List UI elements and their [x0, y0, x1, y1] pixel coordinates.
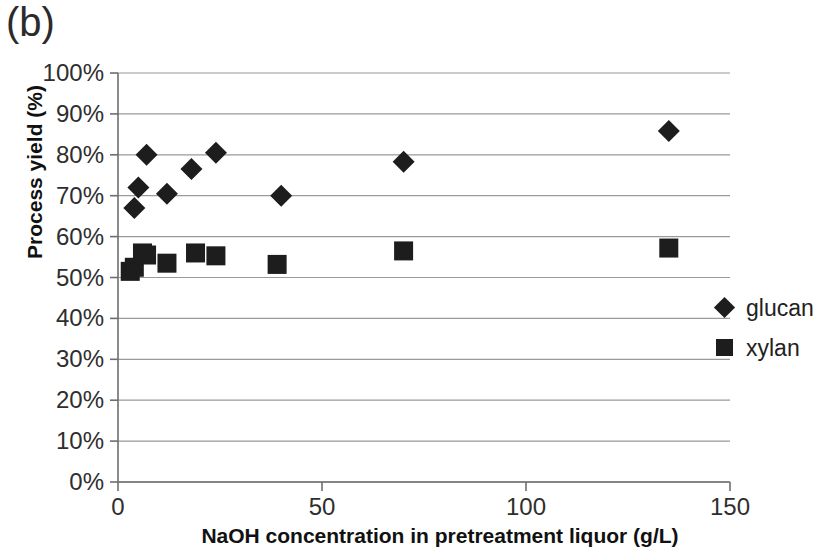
data-point-xylan [206, 246, 225, 265]
data-point-glucan [270, 185, 292, 207]
figure-panel-b: (b) Process yield (%) NaOH concentration… [0, 0, 823, 559]
legend-item-glucan: glucan [714, 288, 814, 328]
data-point-xylan [186, 243, 205, 262]
x-tick-label: 100 [491, 495, 561, 519]
legend-label-glucan: glucan [746, 295, 814, 322]
y-tick-label: 10% [18, 429, 104, 453]
series-glucan [123, 120, 679, 219]
series-xylan [121, 239, 679, 281]
data-point-glucan [205, 142, 227, 164]
x-tick-label: 150 [695, 495, 765, 519]
square-marker-icon [714, 337, 736, 359]
data-point-glucan [156, 183, 178, 205]
scatter-plot-area [0, 0, 823, 559]
data-point-xylan [157, 254, 176, 273]
data-point-glucan [180, 158, 202, 180]
y-tick-label: 30% [18, 347, 104, 371]
diamond-marker-icon [714, 297, 736, 319]
data-point-glucan [393, 151, 415, 173]
y-tick-label: 90% [18, 102, 104, 126]
x-tick-label: 0 [83, 495, 153, 519]
x-tick-label: 50 [287, 495, 357, 519]
legend-item-xylan: xylan [714, 328, 814, 368]
chart-legend: glucan xylan [714, 288, 814, 368]
data-point-glucan [658, 120, 680, 142]
data-point-xylan [137, 246, 156, 265]
y-tick-label: 0% [18, 470, 104, 494]
y-tick-label: 40% [18, 306, 104, 330]
legend-label-xylan: xylan [746, 335, 800, 362]
y-tick-label: 60% [18, 225, 104, 249]
y-tick-label: 80% [18, 143, 104, 167]
data-point-xylan [268, 255, 287, 274]
data-point-glucan [123, 197, 145, 219]
y-tick-label: 70% [18, 184, 104, 208]
data-point-glucan [136, 144, 158, 166]
y-tick-label: 50% [18, 266, 104, 290]
data-point-xylan [659, 239, 678, 258]
y-tick-label: 20% [18, 388, 104, 412]
y-tick-label: 100% [18, 61, 104, 85]
data-point-xylan [394, 241, 413, 260]
